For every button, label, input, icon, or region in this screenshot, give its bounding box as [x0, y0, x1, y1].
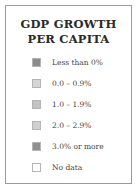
legend-label: 2.0 – 2.9% [52, 121, 92, 130]
legend-items: Less than 0% 0.0 – 0.9% 1.0 – 1.9% 2.0 –… [32, 52, 104, 178]
legend-title-line-1: GDP GROWTH [6, 17, 131, 32]
legend-swatch [32, 100, 41, 109]
legend-label: No data [52, 163, 82, 172]
legend-swatch [32, 58, 41, 67]
legend-item: 1.0 – 1.9% [32, 94, 104, 115]
legend-item: 2.0 – 2.9% [32, 115, 104, 136]
legend-item: 0.0 – 0.9% [32, 73, 104, 94]
legend-swatch [32, 163, 41, 172]
legend-title-line-2: PER CAPITA [6, 32, 131, 47]
legend-title: GDP GROWTH PER CAPITA [6, 17, 131, 47]
legend-swatch [32, 79, 41, 88]
legend-item: 3.0% or more [32, 136, 104, 157]
legend-label: 3.0% or more [52, 142, 104, 151]
legend-label: Less than 0% [52, 58, 103, 67]
legend-label: 0.0 – 0.9% [52, 79, 92, 88]
legend-swatch [32, 121, 41, 130]
legend-item: Less than 0% [32, 52, 104, 73]
legend-box: GDP GROWTH PER CAPITA Less than 0% 0.0 –… [5, 5, 132, 184]
legend-label: 1.0 – 1.9% [52, 100, 92, 109]
legend-swatch [32, 142, 41, 151]
legend-item: No data [32, 157, 104, 178]
